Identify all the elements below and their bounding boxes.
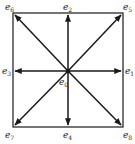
label-e3: e3 [2,66,11,77]
vector-e8-arrow [68,71,121,125]
label-e1: e1 [125,66,134,77]
label-e0: e0 [59,77,68,88]
label-e2: e2 [63,2,72,13]
label-e7: e7 [5,130,14,141]
vector-e5-arrow [68,15,121,71]
center-node [66,69,70,73]
d2q9-lattice-diagram: e6 e2 e5 e3 e1 e0 e7 e4 e8 [0,0,135,144]
label-e5: e5 [123,2,132,13]
vector-e6-arrow [15,15,68,71]
label-e6: e6 [5,2,14,13]
label-e8: e8 [123,130,132,141]
label-e4: e4 [63,130,72,141]
